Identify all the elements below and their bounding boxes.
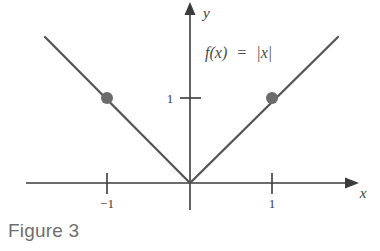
graph-left-branch [45,37,190,183]
figure-caption: Figure 3 [8,220,79,242]
x-axis-arrowhead [345,178,359,189]
data-point-left [101,92,113,104]
function-equals-sign: = [237,44,246,61]
absolute-value-graph: −1 1 1 x y f(x) = |x| [0,0,380,251]
x-axis-label: x [359,185,367,201]
x-tick-label-minus-1: −1 [100,196,114,211]
function-lhs: f(x) [205,44,227,62]
y-axis-label: y [201,5,210,21]
y-axis-arrowhead [185,2,196,15]
figure-container: −1 1 1 x y f(x) = |x| Figure 3 [0,0,380,251]
data-point-right [266,92,278,104]
function-equation-label: f(x) = |x| [205,44,272,62]
function-rhs: |x| [256,44,272,62]
x-tick-label-1: 1 [269,196,276,211]
y-tick-label-1: 1 [167,91,174,106]
